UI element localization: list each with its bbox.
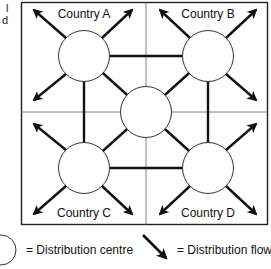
distribution-centre-a-icon (59, 31, 110, 82)
distribution-centre-b-icon (183, 31, 234, 82)
legend-circle-icon (0, 235, 16, 265)
distribution-network-diagram: Country A Country B Country C Country D … (0, 0, 271, 269)
country-label-d: Country D (181, 206, 235, 220)
legend-arrow-label: = Distribution flow (177, 243, 271, 257)
country-label-b: Country B (181, 7, 234, 21)
distribution-centre-c-icon (59, 143, 110, 194)
legend: = Distribution centre = Distribution flo… (0, 235, 271, 265)
distribution-centre-d-icon (183, 143, 234, 194)
legend-arrow-icon (143, 235, 166, 258)
country-label-a: Country A (58, 7, 111, 21)
country-label-c: Country C (57, 206, 111, 220)
distribution-centre-central-icon (121, 87, 172, 138)
legend-circle-label: = Distribution centre (26, 243, 133, 257)
